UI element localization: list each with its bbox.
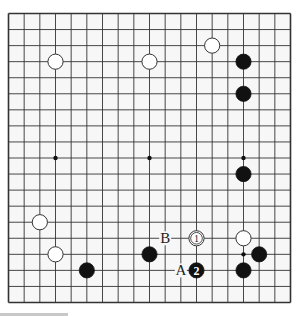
svg-text:B: B <box>160 230 170 246</box>
black-stone <box>236 86 251 101</box>
star-point <box>241 156 245 160</box>
white-stone <box>32 215 47 230</box>
marker-a: A <box>175 262 187 278</box>
svg-text:A: A <box>175 262 186 278</box>
go-board: 12 BA <box>0 0 296 316</box>
black-stone <box>252 247 267 262</box>
white-stone <box>236 231 251 246</box>
stone-number-label: 1 <box>194 233 199 244</box>
star-point <box>53 156 57 160</box>
black-stone <box>79 263 94 278</box>
star-point <box>147 156 151 160</box>
black-stone: 2 <box>189 263 204 278</box>
star-point <box>241 252 245 256</box>
marker-b: B <box>159 230 171 246</box>
white-stone <box>205 38 220 53</box>
stone-number-label: 2 <box>194 264 200 278</box>
white-stone: 1 <box>189 231 204 246</box>
black-stone <box>142 247 157 262</box>
black-stone <box>236 263 251 278</box>
white-stone <box>48 54 63 69</box>
black-stone <box>236 54 251 69</box>
white-stone <box>48 247 63 262</box>
black-stone <box>236 166 251 181</box>
white-stone <box>142 54 157 69</box>
